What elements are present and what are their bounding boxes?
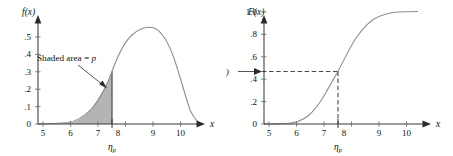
annotation-leader-line <box>78 65 103 85</box>
cdf-xtick-7: 7 <box>322 128 327 138</box>
pdf-xtick-10: 10 <box>176 128 186 138</box>
cdf-curve <box>264 12 418 125</box>
shaded-area-annotation-symbol: p <box>90 53 96 63</box>
statistics-figure: 0 .1 .2 .3 .4 .5 5 6 7 8 9 10 <box>0 0 453 156</box>
cdf-ytick-6: .6 <box>250 52 257 62</box>
cdf-xtick-5: 5 <box>267 128 272 138</box>
pdf-curve <box>38 27 203 124</box>
cdf-panel: 0 .2 .4 .6 .8 1.0 5 6 7 8 9 10 <box>226 0 453 156</box>
pdf-y-axis-title: f(x) <box>22 7 35 18</box>
pdf-xtick-9: 9 <box>151 128 156 138</box>
pdf-xtick-8: 8 <box>116 128 121 138</box>
pdf-xtick-7: 7 <box>96 128 101 138</box>
pdf-xtick-6: 6 <box>68 128 73 138</box>
cdf-y-axis-title: F(x) <box>247 7 264 18</box>
pdf-ytick-0: 0 <box>27 119 32 129</box>
pdf-xtick-5: 5 <box>41 128 46 138</box>
cdf-ytick-4: .4 <box>250 74 257 84</box>
annotation-arrowhead <box>99 80 107 88</box>
cdf-label-close: ) <box>226 67 229 77</box>
pdf-x-axis-arrowhead <box>197 121 206 128</box>
pdf-quantile-label: ηp <box>108 142 116 153</box>
pdf-chart-svg: 0 .1 .2 .3 .4 .5 5 6 7 8 9 10 <box>0 0 226 156</box>
pdf-ytick-1: .1 <box>24 102 31 112</box>
pdf-x-axis-title: x <box>209 119 215 129</box>
pdf-ytick-3: .3 <box>24 67 31 77</box>
cdf-ytick-2: .2 <box>250 97 257 107</box>
shaded-area-annotation: Shaded area = p <box>37 53 96 63</box>
cdf-x-axis-arrowhead <box>423 121 432 128</box>
cdf-xtick-9: 9 <box>377 128 382 138</box>
pdf-eta-subscript: p <box>112 146 116 153</box>
cdf-x-axis-title: x <box>435 119 441 129</box>
cdf-p-label-arrowhead <box>254 68 262 75</box>
pdf-ytick-4: .4 <box>24 49 31 59</box>
cdf-quantile-label: ηp <box>334 142 342 153</box>
cdf-xtick-10: 10 <box>402 128 412 138</box>
pdf-y-axis-arrowhead <box>35 15 42 24</box>
cdf-xtick-6: 6 <box>294 128 299 138</box>
cdf-p-equals-label: p = F(ηp) <box>226 67 229 78</box>
pdf-panel: 0 .1 .2 .3 .4 .5 5 6 7 8 9 10 <box>0 0 226 156</box>
cdf-eta-subscript: p <box>338 146 342 153</box>
pdf-ytick-5: .5 <box>24 32 31 42</box>
shaded-area-region <box>38 72 112 125</box>
cdf-chart-svg: 0 .2 .4 .6 .8 1.0 5 6 7 8 9 10 <box>226 0 453 156</box>
pdf-ytick-2: .2 <box>24 84 31 94</box>
cdf-ytick-0: 0 <box>253 119 258 129</box>
shaded-area-annotation-text: Shaded area = <box>37 53 91 63</box>
cdf-ytick-8: .8 <box>250 29 257 39</box>
cdf-xtick-8: 8 <box>342 128 347 138</box>
